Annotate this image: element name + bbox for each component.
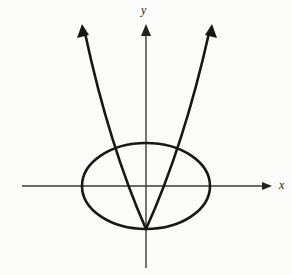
x-axis-arrowhead-icon: [262, 182, 272, 190]
parabola-curve: [77, 24, 217, 229]
parabola-left-arm: [85, 33, 146, 229]
x-axis: [22, 182, 272, 190]
graph-figure: y x: [0, 0, 292, 275]
coordinate-plane-svg: [0, 0, 292, 275]
y-axis-arrowhead-icon: [141, 24, 151, 36]
y-axis-label: y: [141, 4, 146, 16]
x-axis-label: x: [279, 179, 284, 191]
parabola-right-arm: [146, 33, 209, 229]
y-axis: [141, 24, 151, 268]
parabola-right-arrowhead-icon: [205, 24, 217, 38]
parabola-left-arrowhead-icon: [77, 24, 89, 38]
